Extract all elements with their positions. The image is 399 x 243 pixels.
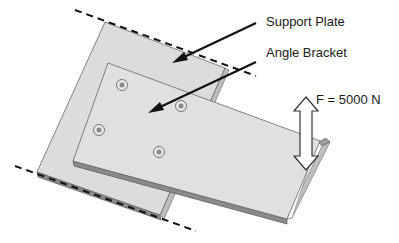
force-label: F = 5000 N xyxy=(316,93,381,106)
bracket-diagram xyxy=(0,0,399,243)
bolt-2 xyxy=(176,101,187,112)
support-plate-label: Support Plate xyxy=(266,15,345,28)
angle-bracket-label: Angle Bracket xyxy=(266,46,347,59)
support-plate-leader xyxy=(182,23,256,58)
bolt-4 xyxy=(154,147,165,158)
bolt-3 xyxy=(94,125,105,136)
bolt-1 xyxy=(117,80,128,91)
